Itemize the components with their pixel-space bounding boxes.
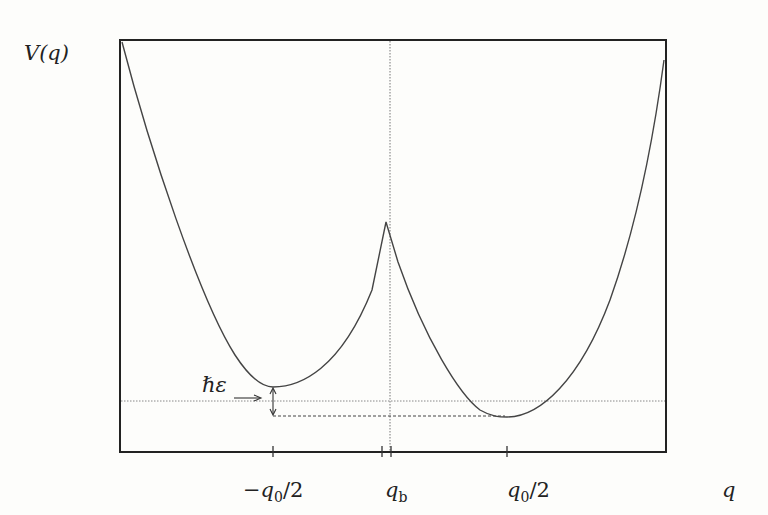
x-axis-label: q [722, 478, 735, 502]
y-axis-label: V(q) [24, 41, 69, 65]
pointer-arrow-icon [234, 395, 261, 401]
potential-curve [122, 42, 664, 417]
tick-label-right-well: q0/2 [507, 478, 550, 505]
potential-diagram: V(q) ℏε −q0/2 qb q0/2 q [0, 0, 768, 515]
tick-label-barrier: qb [385, 478, 407, 505]
energy-offset-label: ℏε [202, 373, 227, 397]
tick-label-left-well: −q0/2 [243, 478, 303, 505]
